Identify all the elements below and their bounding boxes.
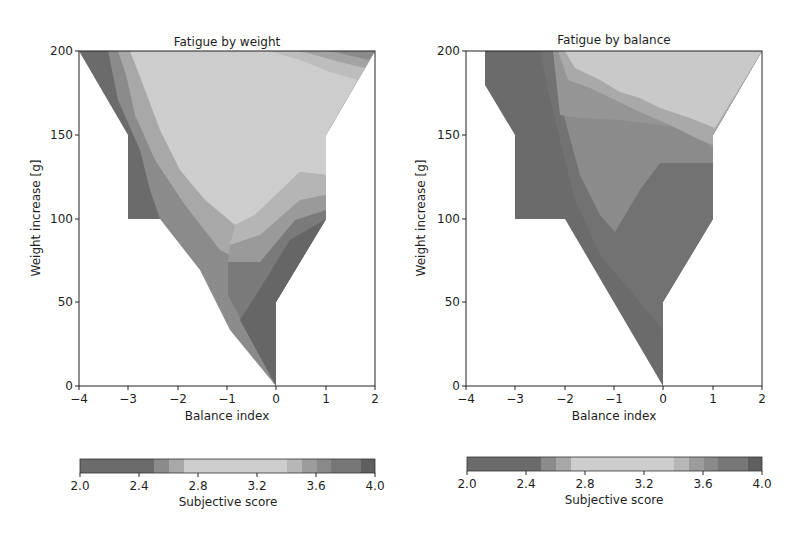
y-tick-label: 150 [437,128,460,142]
y-axis-label: Weight increase [g] [414,160,428,277]
figure: Fatigue by weight [0,0,795,539]
x-tick-label: −2 [556,392,574,406]
x-tick-label: 2 [758,392,766,406]
y-axis-label: Weight increase [g] [29,160,43,277]
x-tick-label: −3 [119,392,137,406]
colorbar-tick-label: 4.0 [752,477,771,491]
y-tick-label: 50 [445,295,460,309]
y-tick-label: 150 [50,128,73,142]
x-tick-label: 2 [371,392,379,406]
colorbar-tick-label: 4.0 [365,479,384,493]
colorbar-tick-label: 2.4 [129,479,148,493]
colorbar-label: Subjective score [565,493,664,507]
y-axis: 0 50 100 150 200 Weight increase [g] [29,44,79,393]
x-tick-label: −1 [605,392,623,406]
x-axis-label: Balance index [572,409,657,423]
colorbar-tick-label: 3.2 [247,479,266,493]
contour-fill [79,51,375,386]
x-tick-label: 0 [272,392,280,406]
colorbar-tick-label: 2.8 [575,477,594,491]
colorbar: 2.0 2.4 2.8 3.2 3.6 4.0 Subjective score [70,459,384,509]
panel-title: Fatigue by balance [557,33,670,47]
colorbar-tick-label: 3.6 [693,477,712,491]
x-axis: −4 −3 −2 −1 0 1 2 Balance index [457,386,766,423]
contour-fill [485,51,762,386]
y-tick-label: 0 [452,379,460,393]
y-tick-label: 100 [437,212,460,226]
colorbar: 2.0 2.4 2.8 3.2 3.6 4.0 Subjective score [457,457,771,507]
x-tick-label: −2 [169,392,187,406]
x-tick-label: 0 [659,392,667,406]
colorbar-tick-label: 2.0 [70,479,89,493]
x-axis: −4 −3 −2 −1 0 1 2 Balance index [70,386,379,423]
colorbar-tick-label: 2.4 [516,477,535,491]
x-axis-label: Balance index [185,409,270,423]
y-tick-label: 50 [58,295,73,309]
x-tick-label: 1 [709,392,717,406]
x-tick-label: −4 [457,392,475,406]
colorbar-tick-label: 3.2 [634,477,653,491]
colorbar-tick-label: 2.0 [457,477,476,491]
x-tick-label: −3 [506,392,524,406]
x-tick-label: 1 [322,392,330,406]
panel-fatigue-by-weight: Fatigue by weight [29,35,385,509]
y-axis: 0 50 100 150 200 Weight increase [g] [414,44,466,393]
colorbar-tick-label: 3.6 [306,479,325,493]
y-tick-label: 200 [437,44,460,58]
panel-title: Fatigue by weight [174,35,281,49]
colorbar-label: Subjective score [179,495,278,509]
y-tick-label: 100 [50,212,73,226]
y-tick-label: 200 [50,44,73,58]
y-tick-label: 0 [65,379,73,393]
x-tick-label: −1 [218,392,236,406]
x-tick-label: −4 [70,392,88,406]
colorbar-tick-label: 2.8 [188,479,207,493]
panel-fatigue-by-balance: Fatigue by balance −4 −3 − [414,33,772,507]
